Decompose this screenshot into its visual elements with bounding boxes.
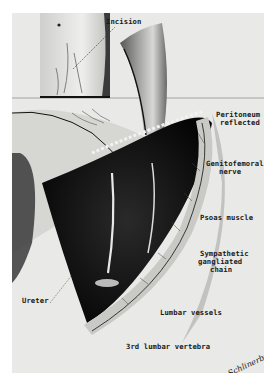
label-third-lumbar-vertebra: 3rd lumbar vertebra [126,343,210,351]
label-genitofemoral-line2: nerve [219,168,241,176]
label-incision: Incision [106,18,141,26]
illustration-plate: Incision Peritoneum reflected Genitofemo… [12,13,264,373]
label-psoas-muscle: Psoas muscle [200,214,253,222]
label-sympathetic-line3: chain [210,266,232,274]
label-ureter: Ureter [22,297,49,305]
label-lumbar-vessels: Lumbar vessels [160,309,222,317]
anatomical-drawing [12,13,264,373]
label-peritoneum-line2: reflected [220,119,260,127]
